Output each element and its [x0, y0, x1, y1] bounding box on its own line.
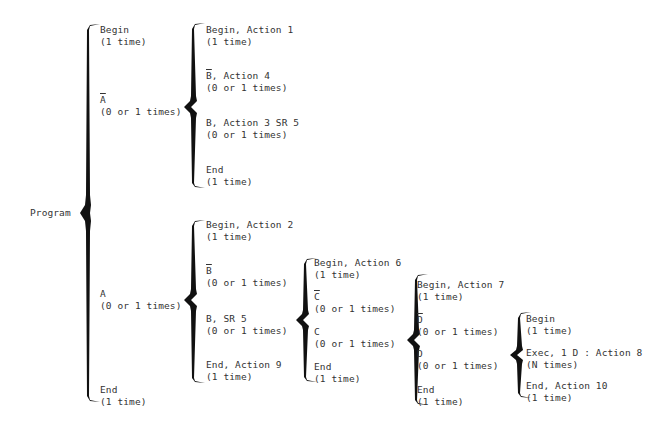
item-name: End, Action 9: [206, 359, 282, 370]
not-a-not-b: B, Action 4 (0 or 1 times): [206, 70, 287, 93]
a-begin: Begin, Action 2 (1 time): [206, 219, 293, 242]
program-bracket: [80, 24, 100, 402]
item-name: A: [100, 288, 106, 299]
item-name: End: [417, 384, 434, 395]
c-d: D (0 or 1 times): [417, 348, 498, 371]
item-name: C: [314, 326, 320, 337]
item-name: End: [100, 384, 117, 395]
item-count: (1 time): [206, 371, 253, 382]
item-name: B: [206, 265, 212, 276]
level1-end: End (1 time): [100, 384, 147, 407]
item-count: (0 or 1 times): [314, 338, 395, 349]
item-count: (0 or 1 times): [206, 82, 287, 93]
item-count: (1 time): [100, 396, 147, 407]
item-count: (0 or 1 times): [417, 360, 498, 371]
item-count: (1 time): [206, 36, 253, 47]
item-name: End: [206, 164, 223, 175]
bsr5-not-c: C (0 or 1 times): [314, 291, 395, 314]
d-end: End, Action 10 (1 time): [526, 380, 607, 403]
item-count: (1 time): [417, 396, 464, 407]
bsr5-c: C (0 or 1 times): [314, 326, 395, 349]
item-count: (1 time): [526, 392, 573, 403]
level1-begin: Begin (1 time): [100, 24, 147, 47]
item-count: (1 time): [526, 325, 573, 336]
not-a-end: End (1 time): [206, 164, 253, 187]
not-a-bracket: [184, 23, 205, 188]
item-count: (0 or 1 times): [206, 129, 287, 140]
not-a-b: B, Action 3 SR 5 (0 or 1 times): [206, 117, 299, 140]
item-name: Begin: [100, 24, 129, 35]
item-name: A: [100, 94, 106, 105]
item-name: Begin, Action 2: [206, 219, 293, 230]
a-not-b: B (0 or 1 times): [206, 265, 287, 288]
item-name: Begin, Action 1: [206, 24, 293, 35]
a-end: End, Action 9 (1 time): [206, 359, 282, 382]
item-name: Exec, 1 D : Action 8: [526, 347, 642, 358]
root-label: Program: [30, 207, 71, 219]
bsr5-begin: Begin, Action 6 (1 time): [314, 257, 401, 280]
d-exec: Exec, 1 D : Action 8 (N times): [526, 347, 642, 370]
item-name: Begin, Action 7: [417, 279, 504, 290]
not-a-begin: Begin, Action 1 (1 time): [206, 24, 293, 47]
item-count: (1 time): [314, 373, 361, 384]
c-not-d: D (0 or 1 times): [417, 314, 498, 337]
item-name: Begin: [526, 313, 555, 324]
item-count: (1 time): [314, 269, 361, 280]
level1-not-a: A (0 or 1 times): [100, 94, 181, 117]
item-name: D: [417, 348, 423, 359]
item-count: (N times): [526, 359, 578, 370]
item-count: (1 time): [206, 176, 253, 187]
item-count: (0 or 1 times): [314, 303, 395, 314]
item-name: B, Action 3 SR 5: [206, 117, 299, 128]
item-name: D: [417, 314, 423, 325]
item-count: (1 time): [100, 36, 147, 47]
item-count: (0 or 1 times): [100, 300, 181, 311]
item-count: (0 or 1 times): [100, 106, 181, 117]
item-name: End, Action 10: [526, 380, 607, 391]
item-count: (0 or 1 times): [417, 326, 498, 337]
item-name: Begin, Action 6: [314, 257, 401, 268]
item-name: C: [314, 291, 320, 302]
a-b-sr5: B, SR 5 (0 or 1 times): [206, 313, 287, 336]
item-name: B, SR 5: [206, 313, 247, 324]
item-count: (0 or 1 times): [206, 277, 287, 288]
item-count: (1 time): [417, 291, 464, 302]
bsr5-end: End (1 time): [314, 361, 361, 384]
level1-a: A (0 or 1 times): [100, 288, 181, 311]
item-name: End: [314, 361, 331, 372]
c-end: End (1 time): [417, 384, 464, 407]
item-suffix: , Action 4: [212, 70, 270, 81]
a-bracket: [184, 220, 205, 383]
c-begin: Begin, Action 7 (1 time): [417, 279, 504, 302]
item-count: (0 or 1 times): [206, 325, 287, 336]
item-count: (1 time): [206, 231, 253, 242]
d-begin: Begin (1 time): [526, 313, 573, 336]
